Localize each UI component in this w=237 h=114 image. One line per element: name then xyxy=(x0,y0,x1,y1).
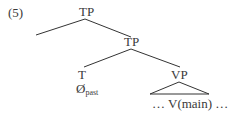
branch-tp-vp xyxy=(131,49,180,67)
branch-root-right xyxy=(85,19,131,37)
branch-root-left xyxy=(36,19,85,35)
tree-branches xyxy=(0,0,237,114)
vp-triangle xyxy=(150,82,209,94)
branch-tp-t xyxy=(84,49,131,67)
